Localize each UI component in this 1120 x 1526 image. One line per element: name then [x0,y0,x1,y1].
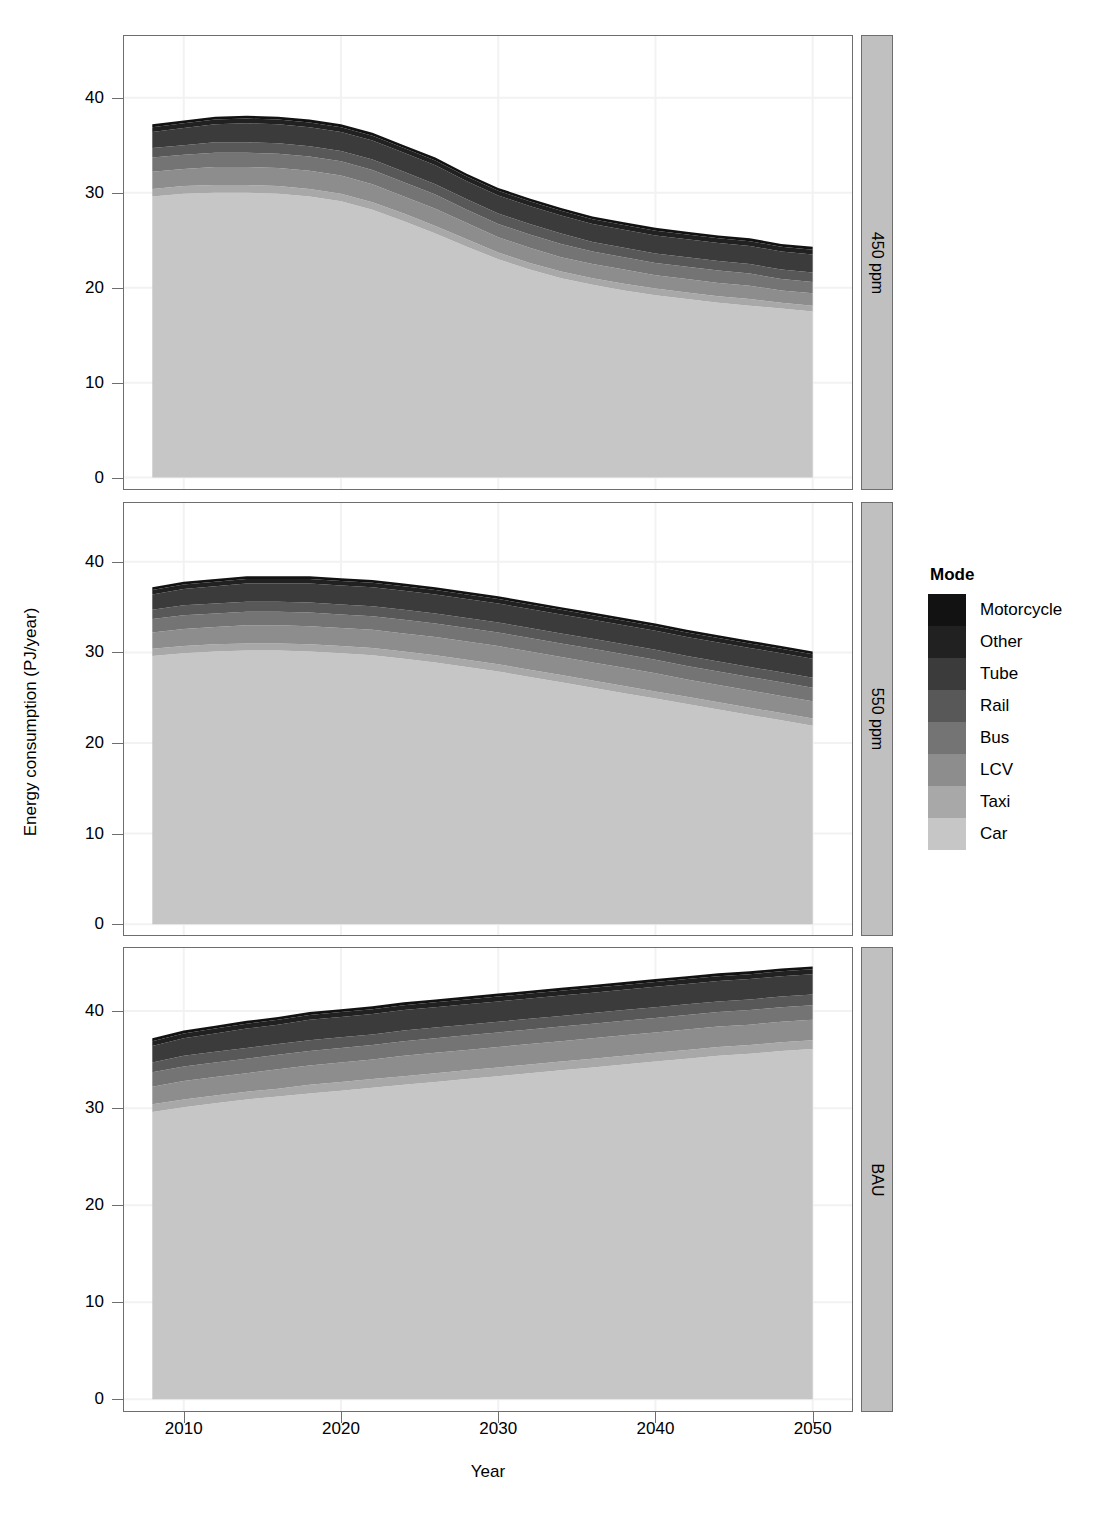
legend-label: Rail [980,696,1009,716]
panel-bau [123,947,853,1412]
legend-item-motorcycle[interactable]: Motorcycle [928,594,1108,626]
legend-item-tube[interactable]: Tube [928,658,1108,690]
y-tick-mark [112,1108,123,1109]
y-tick-mark [112,834,123,835]
legend-swatch-motorcycle [928,594,966,626]
x-axis-title: Year [123,1462,853,1484]
area-car [152,1049,812,1399]
legend-item-rail[interactable]: Rail [928,690,1108,722]
y-tick-label: 10 [58,825,104,842]
y-tick-label: 0 [58,915,104,932]
legend-swatch-rail [928,690,966,722]
legend-swatch-taxi [928,786,966,818]
y-tick-label: 40 [58,89,104,106]
stacked-areas [152,576,812,924]
x-tick-mark [813,1412,814,1423]
plot-area [124,503,852,935]
legend-label: Bus [980,728,1009,748]
y-tick-label: 40 [58,1002,104,1019]
y-tick-mark [112,562,123,563]
y-tick-label: 10 [58,1293,104,1310]
legend-swatch-other [928,626,966,658]
legend-item-taxi[interactable]: Taxi [928,786,1108,818]
strip-label-text: 550 ppm [868,688,886,750]
y-tick-mark [112,98,123,99]
legend-items: MotorcycleOtherTubeRailBusLCVTaxiCar [928,594,1108,850]
y-tick-mark [112,924,123,925]
strip-label-550-ppm: 550 ppm [861,502,893,936]
panel-550-ppm [123,502,853,936]
y-axis-title: Energy consumption (PJ/year) [21,562,41,882]
strip-label-text: BAU [868,1163,886,1196]
y-tick-label: 30 [58,184,104,201]
strip-label-450-ppm: 450 ppm [861,35,893,490]
x-tick-mark [498,1412,499,1423]
x-tick-mark [655,1412,656,1423]
plot-area [124,948,852,1411]
y-tick-label: 20 [58,1196,104,1213]
y-tick-mark [112,1302,123,1303]
y-tick-mark [112,1205,123,1206]
y-tick-label: 0 [58,469,104,486]
legend-label: Other [980,632,1023,652]
legend: Mode MotorcycleOtherTubeRailBusLCVTaxiCa… [928,565,1108,850]
strip-label-bau: BAU [861,947,893,1412]
plot-area [124,36,852,489]
y-tick-mark [112,743,123,744]
legend-label: Motorcycle [980,600,1062,620]
stacked-areas [152,966,812,1399]
y-tick-mark [112,652,123,653]
legend-title: Mode [930,565,1108,585]
legend-label: Car [980,824,1007,844]
strip-label-text: 450 ppm [868,231,886,293]
legend-item-lcv[interactable]: LCV [928,754,1108,786]
legend-label: Tube [980,664,1018,684]
y-tick-label: 30 [58,643,104,660]
legend-swatch-car [928,818,966,850]
legend-swatch-bus [928,722,966,754]
x-tick-mark [341,1412,342,1423]
x-tick-mark [184,1412,185,1423]
figure-root: Energy consumption (PJ/year) Year 010203… [0,0,1120,1526]
legend-swatch-lcv [928,754,966,786]
y-tick-label: 20 [58,734,104,751]
y-tick-label: 40 [58,553,104,570]
y-tick-mark [112,288,123,289]
y-tick-label: 0 [58,1390,104,1407]
legend-item-car[interactable]: Car [928,818,1108,850]
y-tick-mark [112,383,123,384]
legend-item-other[interactable]: Other [928,626,1108,658]
legend-swatch-tube [928,658,966,690]
panel-450-ppm [123,35,853,490]
y-tick-label: 10 [58,374,104,391]
legend-label: LCV [980,760,1013,780]
y-tick-mark [112,1399,123,1400]
y-tick-mark [112,193,123,194]
legend-item-bus[interactable]: Bus [928,722,1108,754]
y-tick-label: 30 [58,1099,104,1116]
y-tick-mark [112,1011,123,1012]
y-tick-label: 20 [58,279,104,296]
y-tick-mark [112,478,123,479]
stacked-areas [152,116,812,478]
legend-label: Taxi [980,792,1010,812]
